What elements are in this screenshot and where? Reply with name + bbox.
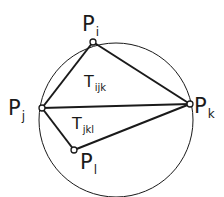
label-sub: jkl bbox=[83, 124, 94, 135]
vertex-pl bbox=[71, 147, 77, 153]
diagram-graphics bbox=[0, 0, 224, 197]
diagram-canvas: Pi Pj Pk Pl Tijk Tjkl bbox=[0, 0, 224, 197]
label-base: P bbox=[80, 150, 93, 174]
label-sub: ijk bbox=[95, 82, 106, 93]
vertex-pk bbox=[187, 101, 193, 107]
label-sub: i bbox=[96, 25, 99, 39]
circumcircle bbox=[39, 43, 193, 197]
label-pj: Pj bbox=[8, 98, 25, 119]
label-base: P bbox=[194, 94, 207, 118]
edge-pj-pl bbox=[42, 108, 74, 150]
vertex-pj bbox=[39, 105, 45, 111]
label-tjkl: Tjkl bbox=[72, 116, 94, 132]
label-sub: k bbox=[208, 107, 215, 121]
edge-pi-pk bbox=[93, 42, 190, 104]
label-base: T bbox=[84, 72, 94, 91]
label-tijk: Tijk bbox=[84, 74, 106, 90]
label-pi: Pi bbox=[82, 14, 99, 35]
vertex-pi bbox=[90, 39, 96, 45]
label-sub: l bbox=[94, 163, 97, 177]
label-sub: j bbox=[22, 109, 25, 123]
label-pl: Pl bbox=[80, 152, 97, 173]
label-base: T bbox=[72, 114, 82, 133]
label-base: P bbox=[8, 96, 21, 120]
label-pk: Pk bbox=[194, 96, 215, 117]
label-base: P bbox=[82, 12, 95, 36]
edge-pj-pk bbox=[42, 104, 190, 108]
